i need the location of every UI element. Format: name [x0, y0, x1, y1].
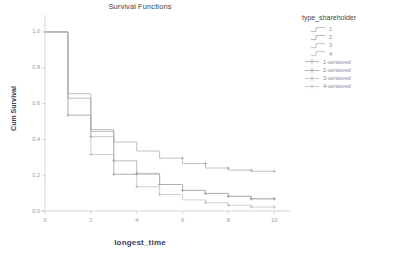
censor-mark — [227, 195, 230, 198]
legend-item-label: 1-censored — [323, 59, 351, 65]
legend-item[interactable]: 2 — [300, 33, 398, 41]
legend-item[interactable]: 3-censored — [300, 74, 398, 82]
legend-line-swatch-icon — [310, 34, 326, 41]
legend-item[interactable]: 1 — [300, 25, 398, 33]
series-3 — [45, 32, 276, 200]
legend-item-label: 4-censored — [323, 83, 351, 89]
legend-item-label: 1 — [329, 26, 332, 32]
censor-mark — [204, 192, 207, 195]
censor-mark — [181, 157, 184, 160]
legend-censored-marker-icon — [304, 75, 320, 82]
series-2 — [45, 32, 276, 200]
legend-item-label: 2 — [329, 34, 332, 40]
censor-mark — [227, 204, 230, 207]
legend-censored-marker-icon — [304, 83, 320, 90]
legend-line-swatch-icon — [310, 26, 326, 33]
censor-mark — [273, 205, 276, 208]
series-4 — [45, 32, 276, 209]
legend-censored-marker-icon — [304, 67, 320, 74]
legend-item-label: 2-censored — [323, 67, 351, 73]
legend: type_shareholder 12341-censored2-censore… — [300, 14, 398, 91]
legend-item-label: 3-censored — [323, 75, 351, 81]
legend-item-label: 3 — [329, 42, 332, 48]
censor-mark — [204, 201, 207, 204]
censor-mark — [181, 189, 184, 192]
legend-item[interactable]: 2-censored — [300, 66, 398, 74]
censor-mark — [227, 166, 230, 169]
legend-censored-marker-icon — [304, 58, 320, 65]
censor-mark — [250, 197, 253, 200]
legend-line-swatch-icon — [310, 42, 326, 49]
legend-item[interactable]: 3 — [300, 41, 398, 49]
censor-mark — [204, 162, 207, 165]
censor-mark — [273, 197, 276, 200]
legend-item[interactable]: 1-censored — [300, 58, 398, 66]
survival-functions-chart: Survival Functions Cum Survival longest_… — [0, 0, 398, 257]
legend-item-label: 4 — [329, 51, 332, 57]
series-1 — [45, 32, 276, 173]
series-line-1 — [45, 32, 274, 171]
legend-item[interactable]: 4 — [300, 50, 398, 58]
legend-items: 12341-censored2-censored3-censored4-cens… — [300, 25, 398, 91]
legend-line-swatch-icon — [310, 50, 326, 57]
censor-mark — [250, 205, 253, 208]
censor-mark — [158, 193, 161, 196]
censor-mark — [273, 170, 276, 173]
censor-mark — [89, 153, 92, 156]
legend-title: type_shareholder — [300, 14, 398, 21]
censor-mark — [135, 185, 138, 188]
legend-item[interactable]: 4-censored — [300, 82, 398, 90]
